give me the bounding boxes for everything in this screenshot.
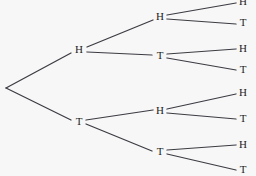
- tree-node-n-tt: T: [153, 146, 167, 157]
- tree-edge-e-t-tt: [86, 124, 152, 151]
- coin-flip-tree-diagram: HTHTHTHTHTHTHT: [0, 0, 256, 176]
- tree-node-n-ttt: T: [236, 164, 250, 175]
- tree-edge-e-ht-hth: [167, 49, 236, 54]
- tree-edge-e-tt-ttt: [167, 154, 236, 170]
- tree-node-n-t: T: [72, 116, 86, 127]
- tree-node-n-hht: T: [236, 17, 250, 28]
- tree-node-n-tth: H: [236, 139, 250, 150]
- tree-node-n-th: H: [153, 105, 167, 116]
- tree-node-n-hhh: H: [236, 0, 250, 7]
- tree-node-n-ht: T: [153, 50, 167, 61]
- tree-node-n-thh: H: [236, 87, 250, 98]
- tree-edges-canvas: [0, 0, 256, 176]
- tree-edge-e-tt-tth: [167, 145, 236, 150]
- tree-node-n-tht: T: [236, 113, 250, 124]
- tree-edge-e-hh-hht: [167, 19, 236, 24]
- tree-edge-e-th-tht: [167, 113, 236, 119]
- tree-edge-e-h-ht: [87, 52, 152, 55]
- tree-node-n-hth: H: [236, 43, 250, 54]
- tree-edge-e-root-h: [6, 53, 71, 88]
- tree-node-n-hh: H: [153, 11, 167, 22]
- tree-edge-e-th-thh: [167, 94, 236, 109]
- tree-edge-e-h-hh: [87, 20, 153, 47]
- tree-edge-e-root-t: [6, 88, 71, 120]
- tree-edge-e-ht-htt: [167, 58, 236, 70]
- tree-edge-e-t-th: [86, 110, 153, 120]
- tree-node-n-h: H: [72, 44, 86, 55]
- tree-edge-e-hh-hhh: [167, 3, 236, 15]
- tree-node-n-htt: T: [236, 64, 250, 75]
- edges-group: [6, 3, 236, 170]
